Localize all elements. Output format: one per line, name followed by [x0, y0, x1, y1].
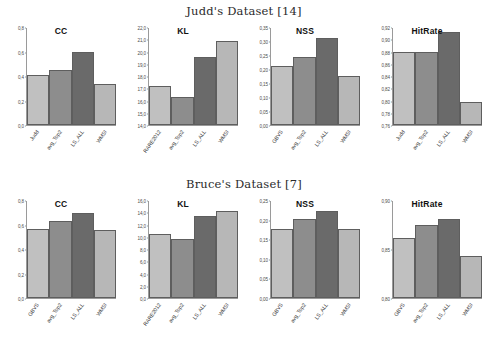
y-axis-tick-mark: [269, 84, 271, 85]
y-axis-tick-label: 2,0: [140, 284, 146, 289]
x-axis-tick-label-text: WMSI: [95, 129, 108, 144]
y-axis-tick-mark: [269, 112, 271, 113]
x-label-slot: LS_ALL: [315, 126, 338, 172]
chart-cc: CC0,80,60,40,20,0Juddavg_Top2LS_ALLWMSI: [0, 22, 122, 173]
bar-slot: [49, 201, 71, 298]
bar-slot: [149, 201, 171, 298]
y-axis-tick-label: 0,84: [381, 75, 390, 80]
y-axis-tick-label: 18,0: [137, 75, 146, 80]
y-axis-tick-label: 0,4: [18, 248, 24, 253]
x-axis-labels: RARE2012avg_Top2LS_ALLWMSI: [148, 126, 238, 172]
chart-kl: KL22,021,020,019,018,017,016,015,014,0RA…: [122, 22, 244, 173]
y-axis-tick-mark: [391, 89, 393, 90]
y-axis-tick-label: 0,2: [18, 272, 24, 277]
y-axis-tick-label: 0,4: [18, 75, 24, 80]
y-axis-tick-mark: [269, 240, 271, 241]
bar-slot: [271, 201, 293, 298]
dataset-title-judd: Judd's Dataset [14]: [0, 4, 488, 18]
x-axis-tick-label-text: WMSI: [339, 302, 352, 317]
x-label-slot: WMSI: [338, 126, 361, 172]
y-axis-tick-mark: [147, 225, 149, 226]
x-label-slot: GBVS: [26, 299, 49, 345]
x-label-slot: avg_Top2: [49, 299, 72, 345]
y-axis-tick-mark: [147, 250, 149, 251]
y-axis-tick-label: 0,00: [259, 297, 268, 302]
y-axis-tick-mark: [147, 77, 149, 78]
bar: [316, 211, 338, 298]
x-axis-tick-label-text: Judd: [29, 129, 40, 142]
x-axis-labels: Juddavg_Top2LS_ALLWMSI: [392, 126, 482, 172]
y-axis-tick-label: 16,0: [137, 99, 146, 104]
y-axis-tick-label: 10,0: [137, 235, 146, 240]
x-label-slot: Judd: [26, 126, 49, 172]
x-label-slot: LS_ALL: [71, 126, 94, 172]
y-axis-tick-label: 0,6: [18, 223, 24, 228]
x-label-slot: LS_ALL: [437, 126, 460, 172]
x-label-slot: LS_ALL: [315, 299, 338, 345]
y-axis-tick-mark: [269, 259, 271, 260]
y-axis-tick-label: 0,85: [381, 248, 390, 253]
bar-slot: [393, 201, 415, 298]
x-label-slot: GBVS: [392, 299, 415, 345]
y-axis-tick-label: 0,80: [381, 99, 390, 104]
bar-slot: [438, 201, 460, 298]
bar: [27, 229, 49, 298]
x-axis-tick-label-text: LS_ALL: [192, 129, 208, 148]
y-axis-tick-mark: [269, 42, 271, 43]
bar-slot: [216, 28, 238, 125]
y-axis-tick-label: 21,0: [137, 38, 146, 43]
x-label-slot: WMSI: [94, 126, 117, 172]
y-axis-tick-mark: [147, 274, 149, 275]
y-axis-tick-label: 15,0: [137, 111, 146, 116]
y-axis-tick-mark: [269, 220, 271, 221]
bar: [72, 213, 94, 298]
y-axis-tick-label: 0,15: [259, 82, 268, 87]
y-axis-tick-mark: [25, 77, 27, 78]
x-label-slot: WMSI: [338, 299, 361, 345]
x-axis-tick-label-text: GBVS: [393, 302, 406, 317]
y-axis-tick-label: 0,86: [381, 62, 390, 67]
y-axis-tick-mark: [391, 101, 393, 102]
bar: [271, 229, 293, 298]
x-axis-tick-label-text: LS_ALL: [436, 129, 452, 148]
x-label-slot: avg_Top2: [293, 299, 316, 345]
x-label-slot: WMSI: [216, 126, 239, 172]
bar-slot: [27, 201, 49, 298]
y-axis-tick-mark: [147, 40, 149, 41]
bar-slot: [338, 201, 360, 298]
bar-slot: [49, 28, 71, 125]
y-axis-tick-label: 8,0: [140, 248, 146, 253]
bar-slot: [438, 28, 460, 125]
x-axis-labels: GBVSavg_Top2LS_ALLWMSI: [270, 126, 360, 172]
x-label-slot: Judd: [392, 126, 415, 172]
bar-slot: [194, 201, 216, 298]
x-axis-tick-label-text: Judd: [395, 129, 406, 142]
x-axis-tick-label-text: WMSI: [217, 302, 230, 317]
y-axis-tick-label: 0,0: [18, 124, 24, 129]
x-label-slot: WMSI: [460, 299, 483, 345]
bar-slot: [415, 201, 437, 298]
y-axis-tick-label: 0,20: [259, 68, 268, 73]
x-label-slot: LS_ALL: [193, 299, 216, 345]
y-axis-tick-mark: [147, 262, 149, 263]
x-axis-tick-label-text: RARE2012: [142, 129, 162, 154]
y-axis-tick-mark: [269, 98, 271, 99]
y-axis-tick-label: 0,76: [381, 124, 390, 129]
x-label-slot: RARE2012: [148, 299, 171, 345]
y-axis-tick-label: 0,05: [259, 277, 268, 282]
y-axis-tick-label: 12,0: [137, 223, 146, 228]
bar: [393, 238, 415, 298]
y-axis-tick-mark: [269, 56, 271, 57]
y-axis-tick-mark: [391, 52, 393, 53]
bar-slot: [338, 28, 360, 125]
x-label-slot: LS_ALL: [71, 299, 94, 345]
y-axis-tick-mark: [391, 250, 393, 251]
y-axis-tick-mark: [147, 237, 149, 238]
x-label-slot: WMSI: [216, 299, 239, 345]
bar-slot: [94, 28, 116, 125]
x-label-slot: avg_Top2: [171, 126, 194, 172]
figure-saliency-metrics: Judd's Dataset [14] CC0,80,60,40,20,0Jud…: [0, 0, 488, 346]
bar-slot: [72, 28, 94, 125]
y-axis-tick-label: 17,0: [137, 87, 146, 92]
bar: [216, 41, 238, 125]
